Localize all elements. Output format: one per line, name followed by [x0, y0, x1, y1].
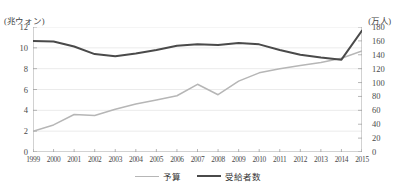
legend-item-recipients: 受給者数 — [197, 170, 261, 182]
legend-item-budget: 予算 — [135, 170, 181, 182]
x-axis-tick-label: 2008 — [211, 155, 225, 164]
right-axis-tick-label: 160 — [372, 36, 385, 46]
right-axis-tick-label: 40 — [372, 119, 381, 129]
plot-svg — [33, 27, 362, 152]
series-line-budget — [33, 51, 362, 131]
x-axis-tick-label: 2000 — [47, 155, 61, 164]
left-axis-tick-label: 10 — [4, 43, 28, 53]
x-axis-tick-label: 2006 — [170, 155, 184, 164]
chart-title-strip — [0, 0, 395, 7]
x-axis-tick-label: 2009 — [232, 155, 246, 164]
left-axis-tick-label: 12 — [4, 22, 28, 32]
x-axis-tick-label: 2002 — [88, 155, 102, 164]
right-axis-tick-label: 0 — [372, 147, 376, 157]
right-axis-tick-labels: 020406080100120140160180 — [367, 27, 395, 152]
right-axis-tick-label: 80 — [372, 91, 381, 101]
right-axis-tick-label: 100 — [372, 78, 385, 88]
right-axis-tick-label: 140 — [372, 50, 385, 60]
legend-label-recipients: 受給者数 — [225, 170, 261, 182]
legend-label-budget: 予算 — [163, 170, 181, 182]
legend-swatch-recipients — [197, 175, 221, 177]
x-axis-tick-label: 2003 — [108, 155, 122, 164]
left-axis-tick-labels: 024681012 — [0, 27, 28, 152]
plot-area — [33, 27, 362, 152]
x-axis-tick-label: 2001 — [67, 155, 81, 164]
series-line-recipients — [33, 30, 362, 59]
x-axis-tick-labels: 1999200020012002200320042005200620072008… — [33, 155, 362, 169]
x-axis-tick-label: 2014 — [335, 155, 349, 164]
x-axis-tick-label: 2012 — [294, 155, 308, 164]
right-axis-tick-label: 60 — [372, 105, 381, 115]
x-axis-tick-label: 2010 — [252, 155, 266, 164]
x-axis-tick-label: 2013 — [314, 155, 328, 164]
left-axis-tick-label: 4 — [4, 105, 28, 115]
left-axis-tick-label: 8 — [4, 64, 28, 74]
x-axis-tick-label: 2004 — [129, 155, 143, 164]
left-axis-tick-label: 0 — [4, 147, 28, 157]
right-axis-tick-label: 120 — [372, 64, 385, 74]
right-axis-tick-label: 20 — [372, 133, 381, 143]
left-axis-tick-label: 6 — [4, 85, 28, 95]
chart-legend: 予算 受給者数 — [0, 170, 395, 182]
x-axis-tick-label: 2007 — [191, 155, 205, 164]
chart-container: (兆ウォン) (万人) 024681012 020406080100120140… — [0, 0, 395, 185]
x-axis-tick-label: 2015 — [355, 155, 369, 164]
x-axis-tick-label: 2005 — [150, 155, 164, 164]
x-axis-tick-label: 1999 — [26, 155, 40, 164]
right-axis-tick-label: 180 — [372, 22, 385, 32]
x-axis-tick-label: 2011 — [273, 155, 286, 164]
legend-swatch-budget — [135, 176, 159, 177]
left-axis-tick-label: 2 — [4, 126, 28, 136]
